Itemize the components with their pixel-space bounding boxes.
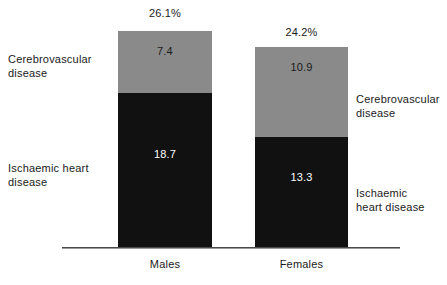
series-label-left-ischaemic: Ischaemic heart disease <box>8 161 112 189</box>
category-label-females: Females <box>255 258 348 270</box>
bar-value-females-ischaemic: 13.3 <box>255 171 348 183</box>
category-label-males: Males <box>118 258 212 270</box>
series-label-left-cerebrovascular: Cerebrovascular disease <box>8 52 112 80</box>
series-label-right-ischaemic: Ischaemic heart disease <box>356 186 446 214</box>
bar-males: 7.4 18.7 <box>118 31 212 248</box>
bar-segment-females-cerebrovascular: 10.9 <box>255 47 348 138</box>
bar-segment-males-cerebrovascular: 7.4 <box>118 31 212 93</box>
bar-segment-females-ischaemic: 13.3 <box>255 137 348 248</box>
axis-baseline <box>62 247 400 249</box>
bar-segment-males-ischaemic: 18.7 <box>118 93 212 249</box>
series-label-right-cerebrovascular: Cerebrovascular disease <box>356 92 446 120</box>
bar-value-males-ischaemic: 18.7 <box>118 148 212 160</box>
bar-total-males: 26.1% <box>118 7 212 19</box>
bar-value-females-cerebrovascular: 10.9 <box>255 61 348 73</box>
bar-females: 10.9 13.3 <box>255 47 348 248</box>
bar-value-males-cerebrovascular: 7.4 <box>118 45 212 57</box>
stacked-bar-chart: 26.1% 24.2% 7.4 18.7 10.9 13.3 Males Fem… <box>0 0 447 285</box>
bar-total-females: 24.2% <box>255 26 348 38</box>
